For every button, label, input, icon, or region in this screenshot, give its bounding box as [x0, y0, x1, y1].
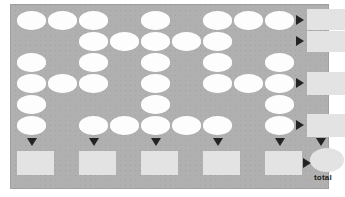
grid-cell-r6c1[interactable] — [17, 116, 46, 135]
column-total-arrow-2 — [89, 138, 99, 146]
worksheet-panel: total — [10, 4, 329, 189]
grid-cell-r6c5[interactable] — [141, 116, 170, 135]
grid-cell-r3c7[interactable] — [203, 53, 232, 72]
grid-cell-r4c5[interactable] — [141, 74, 170, 93]
grid-cell-r6c9[interactable] — [265, 116, 294, 135]
grid-cell-r4c1[interactable] — [17, 74, 46, 93]
column-total-box-4[interactable] — [203, 151, 240, 175]
grid-cell-r3c3[interactable] — [79, 53, 108, 72]
row-total-box-2[interactable] — [307, 31, 345, 52]
column-total-box-3[interactable] — [141, 151, 178, 175]
grid-cell-r1c9[interactable] — [265, 11, 294, 30]
grid-cell-r3c5[interactable] — [141, 53, 170, 72]
column-total-box-2[interactable] — [79, 151, 116, 175]
grid-cell-r5c1[interactable] — [17, 95, 46, 114]
grid-cell-r3c1[interactable] — [17, 53, 46, 72]
column-total-arrow-3 — [151, 138, 161, 146]
grid-cell-r2c3[interactable] — [79, 32, 108, 51]
grid-cell-r4c3[interactable] — [79, 74, 108, 93]
grid-cell-r6c7[interactable] — [203, 116, 232, 135]
row-total-arrow-6 — [296, 120, 304, 130]
grand-total-oval[interactable] — [310, 148, 344, 172]
column-total-arrow-4 — [213, 138, 223, 146]
grid-cell-r6c3[interactable] — [79, 116, 108, 135]
column-total-box-5[interactable] — [265, 151, 302, 175]
grid-cell-r1c2[interactable] — [48, 11, 77, 30]
grid-cell-r1c7[interactable] — [203, 11, 232, 30]
grid-cell-r4c8[interactable] — [234, 74, 263, 93]
grid-cell-r1c1[interactable] — [17, 11, 46, 30]
grid-cell-r1c3[interactable] — [79, 11, 108, 30]
grid-cell-r6c4[interactable] — [110, 116, 139, 135]
grid-cell-r2c6[interactable] — [172, 32, 201, 51]
row-total-box-1[interactable] — [307, 9, 345, 30]
column-total-arrow-1 — [27, 138, 37, 146]
grid-cell-r5c5[interactable] — [141, 95, 170, 114]
grid-cell-r1c8[interactable] — [234, 11, 263, 30]
grid-cell-r2c4[interactable] — [110, 32, 139, 51]
row-total-arrow-4 — [296, 78, 304, 88]
grid-cell-r6c6[interactable] — [172, 116, 201, 135]
column-total-arrow-5 — [275, 138, 285, 146]
column-total-box-1[interactable] — [17, 151, 54, 175]
grid-cell-r4c9[interactable] — [265, 74, 294, 93]
row-total-arrow-1 — [296, 15, 304, 25]
grand-total-arrow — [316, 138, 326, 146]
grid-cell-r3c9[interactable] — [265, 53, 294, 72]
row-total-box-4[interactable] — [307, 72, 345, 95]
grid-cell-r1c5[interactable] — [141, 11, 170, 30]
grid-cell-r4c7[interactable] — [203, 74, 232, 93]
row-total-box-6[interactable] — [307, 114, 345, 137]
grid-cell-r4c2[interactable] — [48, 74, 77, 93]
grid-cell-r5c9[interactable] — [265, 95, 294, 114]
grand-total-label: total — [314, 174, 332, 182]
grid-cell-r2c5[interactable] — [141, 32, 170, 51]
row-total-arrow-2 — [296, 36, 304, 46]
grid-cell-r2c7[interactable] — [203, 32, 232, 51]
